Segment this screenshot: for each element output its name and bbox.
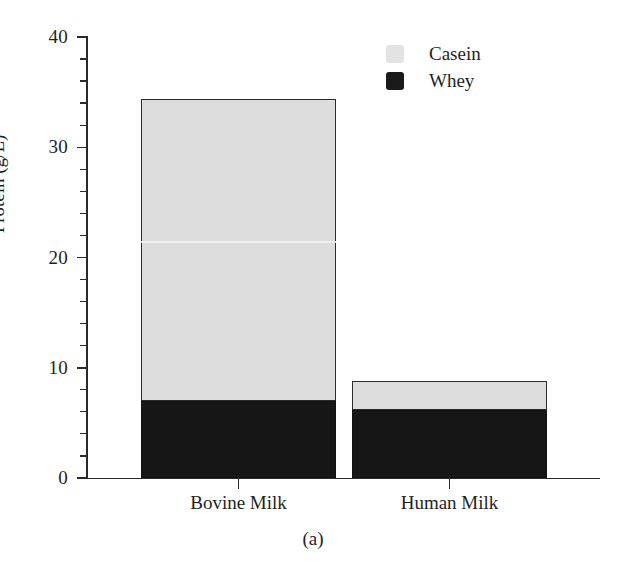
bar-group[interactable] [352, 37, 547, 478]
chart-legend: Casein Whey [386, 40, 566, 94]
figure-panel-a: Protein (g/L) 010203040 Bovine MilkHuman… [0, 0, 626, 578]
plot-area [86, 37, 600, 478]
y-tick-label: 30 [28, 137, 68, 156]
whey-swatch-icon [386, 72, 404, 90]
y-tick-major [77, 477, 86, 479]
y-axis-title: Protein (g/L) [0, 34, 8, 334]
y-tick-label: 40 [28, 27, 68, 46]
legend-item-whey[interactable]: Whey [386, 67, 566, 94]
legend-item-casein[interactable]: Casein [386, 40, 566, 67]
bar-segment-whey[interactable] [141, 401, 336, 478]
bar-segment-casein[interactable] [352, 381, 547, 410]
x-tick-label: Human Milk [350, 492, 550, 514]
x-tick-major [238, 479, 240, 489]
y-tick-label: 20 [28, 248, 68, 267]
legend-label-casein: Casein [429, 44, 481, 63]
bar-segment-whey[interactable] [352, 410, 547, 478]
scan-artifact-line [141, 241, 336, 243]
bar-segment-casein[interactable] [141, 99, 336, 401]
figure-caption: (a) [0, 528, 626, 550]
y-tick-label: 10 [28, 358, 68, 377]
y-tick-major [77, 36, 86, 38]
x-tick-major [449, 479, 451, 489]
y-tick-major [77, 257, 86, 259]
y-tick-label: 0 [28, 468, 68, 487]
bar-group[interactable] [141, 37, 336, 478]
y-tick-major [77, 147, 86, 149]
y-tick-major [77, 367, 86, 369]
x-tick-label: Bovine Milk [139, 492, 339, 514]
legend-label-whey: Whey [429, 71, 474, 90]
casein-swatch-icon [386, 45, 404, 63]
